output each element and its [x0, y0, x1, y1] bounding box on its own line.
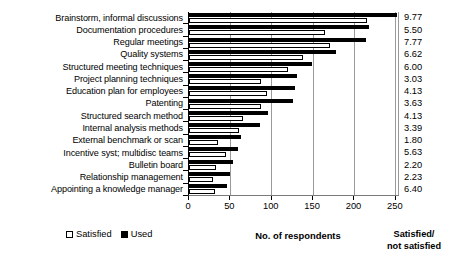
- category-label: Patenting: [0, 98, 186, 110]
- bar-used: [189, 172, 230, 176]
- category-label: Internal analysis methods: [0, 122, 186, 134]
- bar-group: [189, 134, 399, 146]
- bar-satisfied: [189, 67, 288, 72]
- bar-group: [189, 12, 399, 24]
- bar-group: [189, 171, 399, 183]
- bar-satisfied: [189, 116, 243, 121]
- bar-group: [189, 85, 399, 97]
- category-label: Bulletin board: [0, 159, 186, 171]
- ratio-value: 3.03: [404, 73, 450, 85]
- bar-satisfied: [189, 43, 330, 48]
- legend: Satisfied Used: [66, 229, 152, 239]
- bar-satisfied: [189, 18, 367, 23]
- bar-used: [189, 147, 238, 151]
- category-label: Education plan for employees: [0, 86, 186, 98]
- category-label: Incentive syst; multidisc teams: [0, 147, 186, 159]
- ratio-value: 6.62: [404, 49, 450, 61]
- x-axis-tick-label: 150: [304, 201, 320, 211]
- value-axis: 050100150200250: [188, 196, 399, 218]
- category-label: Brainstorm, informal discussions: [0, 12, 186, 24]
- category-label: Appointing a knowledge manager: [0, 184, 186, 196]
- x-axis-tick-label: 50: [224, 201, 234, 211]
- bar-group: [189, 24, 399, 36]
- ratio-value: 3.63: [404, 98, 450, 110]
- x-axis-tick: [271, 196, 272, 200]
- bar-used: [189, 184, 227, 188]
- ratio-value: 5.63: [404, 147, 450, 159]
- bar-used: [189, 74, 297, 78]
- x-axis-tick: [353, 196, 354, 200]
- bar-satisfied: [189, 79, 261, 84]
- ratio-value: 2.23: [404, 171, 450, 183]
- legend-label: Satisfied: [76, 229, 112, 239]
- ratio-heading-line-1: Satisfied/: [376, 228, 452, 240]
- x-axis-tick: [229, 196, 230, 200]
- x-axis-tick-label: 100: [263, 201, 279, 211]
- bar-group: [189, 61, 399, 73]
- bar-group: [189, 36, 399, 48]
- bar-satisfied: [189, 140, 218, 145]
- bar-satisfied: [189, 152, 226, 157]
- bar-group: [189, 73, 399, 85]
- ratio-heading-line-2: not satisfied: [376, 240, 452, 252]
- bar-group: [189, 110, 399, 122]
- x-axis-tick-label: 200: [346, 201, 362, 211]
- ratio-value: 7.77: [404, 37, 450, 49]
- bar-rows: [189, 12, 399, 195]
- ratio-value: 2.20: [404, 159, 450, 171]
- bar-satisfied: [189, 55, 303, 60]
- x-axis-tick: [312, 196, 313, 200]
- x-axis-tick: [395, 196, 396, 200]
- category-label: Relationship management: [0, 171, 186, 183]
- ratio-value: 4.13: [404, 110, 450, 122]
- bar-group: [189, 49, 399, 61]
- ratio-value: 6.40: [404, 184, 450, 196]
- ratio-value: 9.77: [404, 12, 450, 24]
- x-axis-tick-label: 250: [387, 201, 403, 211]
- bar-used: [189, 99, 293, 103]
- bar-group: [189, 146, 399, 158]
- category-axis-labels: Brainstorm, informal discussions Documen…: [0, 12, 186, 196]
- filled-square-icon: [121, 231, 128, 238]
- legend-item-satisfied: Satisfied: [66, 229, 112, 239]
- bar-satisfied: [189, 189, 215, 194]
- category-label: Project planning techniques: [0, 73, 186, 85]
- bar-satisfied: [189, 30, 325, 35]
- bar-chart: Brainstorm, informal discussions Documen…: [0, 0, 452, 272]
- category-label: External benchmark or scan: [0, 135, 186, 147]
- plot-area: [188, 12, 399, 196]
- ratio-value: 1.80: [404, 135, 450, 147]
- category-label: Quality systems: [0, 49, 186, 61]
- bar-used: [189, 111, 268, 115]
- category-label: Structured search method: [0, 110, 186, 122]
- category-label: Structured meeting techniques: [0, 61, 186, 73]
- satisfied-ratio-column: 9.77 5.50 7.77 6.62 6.00 3.03 4.13 3.63 …: [404, 12, 450, 196]
- bar-used: [189, 160, 233, 164]
- bar-used: [189, 50, 336, 54]
- bar-satisfied: [189, 91, 267, 96]
- ratio-value: 5.50: [404, 24, 450, 36]
- bar-used: [189, 62, 312, 66]
- bar-group: [189, 97, 399, 109]
- category-label: Regular meetings: [0, 37, 186, 49]
- ratio-column-heading: Satisfied/ not satisfied: [376, 228, 452, 252]
- bar-satisfied: [189, 165, 216, 170]
- bar-used: [189, 123, 260, 127]
- x-axis-title: No. of respondents: [228, 230, 368, 241]
- bar-satisfied: [189, 177, 213, 182]
- legend-item-used: Used: [121, 229, 153, 239]
- bar-group: [189, 158, 399, 170]
- bar-used: [189, 135, 241, 139]
- bar-used: [189, 25, 369, 29]
- bar-group: [189, 122, 399, 134]
- hollow-square-icon: [66, 231, 73, 238]
- legend-label: Used: [131, 229, 153, 239]
- ratio-value: 4.13: [404, 86, 450, 98]
- bar-used: [189, 38, 366, 42]
- x-axis-tick: [188, 196, 189, 200]
- x-axis-tick-label: 0: [185, 201, 190, 211]
- bar-satisfied: [189, 104, 261, 109]
- bar-group: [189, 183, 399, 195]
- bar-satisfied: [189, 128, 239, 133]
- bar-used: [189, 13, 397, 17]
